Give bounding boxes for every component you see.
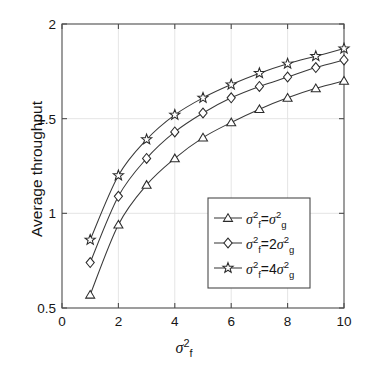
y-axis-title: Average throughput (28, 69, 46, 269)
x-tick-label: 10 (336, 314, 351, 329)
y-tick-label: 0.5 (37, 301, 56, 316)
marker-triangle (198, 133, 207, 141)
y-tick-label: 2 (48, 17, 56, 32)
legend-equals: = (261, 261, 269, 277)
legend-equals: = (261, 211, 269, 227)
x-axis-sigma-glyph: σ2f (176, 339, 193, 356)
marker-triangle (283, 94, 292, 102)
legend-coefficient: 2 (269, 236, 277, 252)
legend-entry-label-triangle: σ2f=σ2g (246, 209, 287, 229)
marker-star (85, 234, 95, 244)
legend-sigma-f: σ2f (246, 262, 261, 277)
marker-star (198, 92, 208, 102)
legend-sigma-g: σ2g (269, 212, 287, 227)
marker-triangle (227, 118, 236, 126)
legend-entry-label-star: σ2f=4σ2g (246, 259, 294, 279)
marker-triangle (255, 105, 264, 113)
legend-coefficient: 4 (269, 261, 277, 277)
chart-figure: 02468100.511.52 Average throughput σ2f σ… (0, 0, 368, 384)
marker-star (254, 68, 264, 78)
marker-diamond (199, 108, 207, 118)
legend-equals: = (261, 236, 269, 252)
x-tick-label: 8 (284, 314, 292, 329)
legend-sigma-g: σ2g (277, 262, 295, 277)
x-axis-title: σ2f (0, 337, 368, 360)
marker-triangle (114, 220, 123, 228)
legend-entry-label-diamond: σ2f=2σ2g (246, 234, 294, 254)
x-tick-label: 2 (115, 314, 123, 329)
x-tick-label: 4 (171, 314, 179, 329)
marker-diamond (340, 55, 348, 65)
marker-star (311, 51, 321, 61)
legend-sigma-g: σ2g (277, 237, 295, 252)
marker-triangle (339, 77, 348, 85)
marker-diamond (171, 127, 179, 137)
marker-diamond (284, 72, 292, 82)
plot-area: 02468100.511.52 (0, 0, 368, 384)
legend-sigma-f: σ2f (246, 237, 261, 252)
marker-diamond (255, 82, 263, 92)
x-tick-label: 6 (227, 314, 235, 329)
marker-diamond (114, 191, 122, 201)
x-tick-label: 0 (58, 314, 66, 329)
marker-diamond (312, 63, 320, 73)
marker-diamond (227, 93, 235, 103)
marker-diamond (86, 258, 94, 268)
legend-sigma-f: σ2f (246, 212, 261, 227)
y-tick-label: 1 (48, 206, 56, 221)
x-axis-subscript: f (189, 348, 192, 360)
marker-triangle (86, 290, 95, 298)
